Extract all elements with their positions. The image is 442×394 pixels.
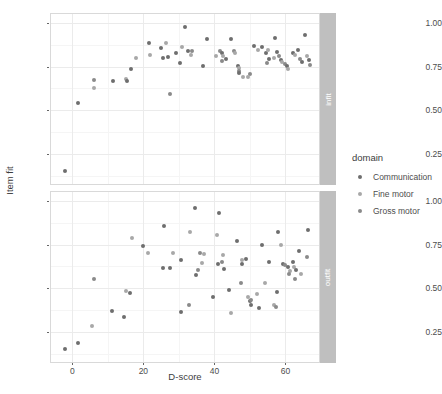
data-point [286, 67, 290, 71]
data-point [63, 169, 67, 173]
legend-item-label: Communication [373, 172, 432, 182]
legend-item-label: Gross motor [373, 206, 420, 216]
data-point [306, 228, 310, 232]
data-point [299, 272, 303, 276]
data-point [276, 230, 280, 234]
data-point [148, 53, 152, 57]
data-point [215, 233, 219, 237]
data-point [296, 48, 300, 52]
y-axis-tick-mark [47, 245, 49, 246]
x-axis-tick-label: 0 [70, 366, 75, 376]
data-point [239, 281, 243, 285]
data-point [241, 75, 245, 79]
data-point [255, 292, 259, 296]
data-point [134, 56, 138, 60]
data-point [198, 251, 202, 255]
data-point [168, 266, 172, 270]
legend-item[interactable]: Gross motor [352, 203, 432, 219]
data-point [235, 239, 239, 243]
data-point [190, 49, 194, 53]
legend-item[interactable]: Communication [352, 169, 432, 185]
grid-line-major [51, 332, 319, 333]
data-point [76, 101, 80, 105]
grid-line-minor [51, 223, 319, 224]
legend-dot-icon [358, 209, 362, 213]
data-point [159, 46, 163, 50]
data-point [287, 272, 291, 276]
data-point [166, 55, 170, 59]
grid-line-minor [250, 14, 251, 184]
data-point [220, 260, 224, 264]
data-point [76, 341, 80, 345]
grid-line-major [51, 201, 319, 202]
data-point [183, 25, 187, 29]
y-axis-tick-label: 1.00 [396, 18, 442, 28]
x-axis-tick-mark [214, 363, 215, 365]
data-point [178, 61, 182, 65]
grid-line-major [143, 192, 144, 362]
grid-line-major [285, 192, 286, 362]
data-point [305, 255, 309, 259]
data-point [240, 262, 244, 266]
grid-line-major [72, 14, 73, 184]
data-point [256, 48, 260, 52]
y-axis-tick-mark [47, 154, 49, 155]
data-point [194, 273, 198, 277]
data-point [146, 251, 150, 255]
grid-line-major [143, 14, 144, 184]
data-point [293, 53, 297, 57]
data-point [221, 253, 225, 257]
legend-key-swatch [352, 209, 367, 213]
legend-title: domain [352, 152, 432, 163]
data-point [141, 244, 145, 248]
legend: domain CommunicationFine motorGross moto… [352, 152, 432, 220]
data-point [266, 48, 270, 52]
legend-item-label: Fine motor [373, 189, 414, 199]
panel-outfit [50, 191, 320, 363]
data-point [297, 249, 301, 253]
data-point [188, 230, 192, 234]
data-point [122, 315, 126, 319]
x-axis-tick-mark [72, 363, 73, 365]
data-point [201, 64, 205, 68]
legend-item[interactable]: Fine motor [352, 186, 432, 202]
grid-line-major [72, 192, 73, 362]
data-point [211, 295, 215, 299]
y-axis-tick-label: 0.75 [396, 240, 442, 250]
data-point [275, 50, 279, 54]
data-point [224, 57, 228, 61]
data-point [233, 51, 237, 55]
grid-line-major [51, 23, 319, 24]
x-axis-title: D-score [50, 371, 320, 382]
data-point [260, 45, 264, 49]
data-point [307, 58, 311, 62]
data-point [267, 260, 271, 264]
data-point [162, 224, 166, 228]
data-point [294, 268, 298, 272]
legend-key-swatch [352, 175, 367, 179]
grid-line-major [51, 110, 319, 111]
data-point [128, 291, 132, 295]
data-point [293, 277, 297, 281]
grid-line-minor [179, 192, 180, 362]
legend-dot-icon [358, 192, 362, 196]
grid-line-minor [51, 266, 319, 267]
data-point [260, 243, 264, 247]
data-point [237, 71, 241, 75]
data-point [222, 267, 226, 271]
x-axis-tick-mark [285, 363, 286, 365]
facet-strip-infit: infit [320, 13, 336, 185]
y-axis-tick-label: 0.50 [396, 283, 442, 293]
y-axis-tick-mark [47, 201, 49, 202]
grid-line-minor [108, 14, 109, 184]
grid-line-major [51, 154, 319, 155]
data-point [92, 277, 96, 281]
y-axis-title: Item fit [2, 0, 16, 360]
grid-line-minor [51, 176, 319, 177]
grid-line-major [51, 67, 319, 68]
x-axis-tick-label: 40 [210, 366, 219, 376]
data-point [174, 51, 178, 55]
data-point [110, 309, 114, 313]
y-axis-tick-mark [47, 110, 49, 111]
data-point [129, 67, 133, 71]
